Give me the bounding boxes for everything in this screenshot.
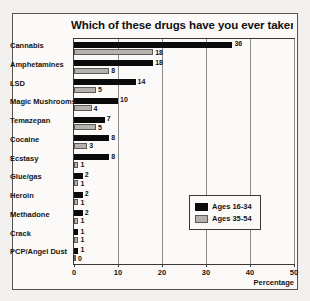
x-tick-label: 40 [246,268,254,277]
category-label: Cannabis [10,41,70,50]
category-row: Heroin21 [74,189,294,208]
legend-swatch-icon [195,215,208,223]
bar-ages-35-54 [74,237,78,243]
bar-value-label: 18 [155,49,163,56]
x-tick-mark [162,264,163,267]
bar-value-label: 8 [111,153,115,160]
category-label: PCP/Angel Dust [10,247,70,256]
bar-value-label: 3 [89,142,93,149]
x-tick-label: 50 [290,268,298,277]
category-label: Amphetamines [10,60,70,69]
category-label-text: Cocaine [10,135,70,144]
bar-value-label: 14 [138,78,146,85]
bar-ages-35-54 [74,255,76,261]
legend-label: Ages 35-54 [212,214,252,223]
category-label: Glue/gas [10,172,70,181]
category-row: LSD145 [74,77,294,96]
category-label: Crack [10,229,70,238]
category-row: Amphetamines188 [74,58,294,77]
category-label: Cocaine [10,135,70,144]
bar-value-label: 1 [80,161,84,168]
legend-item: Ages 35-54 [195,213,255,224]
category-label: Ecstasy [10,154,70,163]
bar-value-label: 1 [80,199,84,206]
category-row: Cocaine83 [74,133,294,152]
x-tick-mark [118,264,119,267]
bar-ages-35-54 [74,199,78,205]
legend-label: Ages 16-34 [212,202,252,211]
bar-value-label: 8 [111,134,115,141]
bar-value-label: 2 [85,171,89,178]
category-label: LSD [10,79,70,88]
category-label: Heroin [10,191,70,200]
category-label-text: Glue/gas [10,172,70,181]
category-label-text: Magic Mushrooms [10,97,70,106]
plot-area: Cannabis3618Amphetamines188LSD145Magic M… [73,38,295,265]
bar-value-label: 0 [78,255,82,262]
legend-swatch-icon [195,203,208,211]
category-row: Magic Mushrooms104 [74,95,294,114]
x-tick-label: 0 [72,268,76,277]
bar-ages-16-34 [74,135,109,141]
category-row: Glue/gas21 [74,170,294,189]
category-row: Cannabis3618 [74,39,294,58]
bar-ages-35-54 [74,218,78,224]
bar-value-label: 7 [107,115,111,122]
category-label-text: Ecstasy [10,154,70,163]
chart-page: Which of these drugs have you ever taken… [0,0,310,301]
bar-value-label: 5 [98,86,102,93]
bar-ages-35-54 [74,162,78,168]
category-label-text: Amphetamines [10,60,70,69]
bar-ages-16-34 [74,117,105,123]
bar-ages-16-34 [74,173,83,179]
category-label-text: Cannabis [10,41,70,50]
category-row: PCP/Angel Dust10 [74,245,294,264]
x-tick-mark [74,264,75,267]
x-tick-mark [206,264,207,267]
bar-value-label: 4 [94,105,98,112]
bar-ages-35-54 [74,68,109,74]
gridline-50 [294,39,295,264]
bar-ages-16-34 [74,98,118,104]
bar-value-label: 18 [155,59,163,66]
category-label-text: Crack [10,229,70,238]
chart-legend: Ages 16-34Ages 35-54 [189,195,261,230]
category-label-text: Temazepan [10,116,70,125]
bar-ages-16-34 [74,248,78,254]
bar-ages-16-34 [74,42,232,48]
bar-value-label: 1 [80,180,84,187]
bar-value-label: 2 [85,209,89,216]
category-label: Temazepan [10,116,70,125]
x-tick-mark [294,264,295,267]
category-label: Magic Mushrooms [10,97,70,106]
legend-item: Ages 16-34 [195,201,255,212]
bar-ages-35-54 [74,143,87,149]
bar-value-label: 1 [80,228,84,235]
category-row: Temazepan75 [74,114,294,133]
x-axis-title: Percentage [254,278,294,287]
chart-frame: Which of these drugs have you ever taken… [12,13,298,290]
category-label-text: Heroin [10,191,70,200]
x-tick-label: 30 [202,268,210,277]
bar-value-label: 1 [80,217,84,224]
x-tick-label: 20 [158,268,166,277]
bar-ages-35-54 [74,124,96,130]
bar-ages-16-34 [74,79,136,85]
bar-value-label: 1 [80,236,84,243]
bar-value-label: 1 [80,246,84,253]
bar-value-label: 8 [111,67,115,74]
bar-value-label: 2 [85,190,89,197]
bar-ages-35-54 [74,49,153,55]
bar-ages-35-54 [74,180,78,186]
bar-ages-16-34 [74,60,153,66]
bar-ages-35-54 [74,105,92,111]
bar-value-label: 36 [234,40,242,47]
bar-value-label: 10 [120,96,128,103]
x-tick-mark [250,264,251,267]
category-row: Methadone21 [74,208,294,227]
category-label-text: Methadone [10,210,70,219]
bar-ages-16-34 [74,154,109,160]
bar-value-label: 5 [98,124,102,131]
category-label-text: PCP/Angel Dust [10,247,70,256]
bar-ages-16-34 [74,229,78,235]
